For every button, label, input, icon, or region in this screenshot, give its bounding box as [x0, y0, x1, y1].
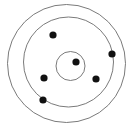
electron-outer-2 [39, 96, 46, 103]
electron-inner-1 [72, 58, 79, 65]
electron-middle-1 [49, 31, 56, 38]
electron-middle-2 [92, 75, 99, 82]
diagram-canvas [0, 0, 134, 128]
orbit-ring-middle-shell [24, 17, 114, 107]
orbit-ring-inner-shell [56, 52, 85, 81]
orbit-ring-outer-shell [8, 5, 126, 123]
electron-outer-1 [108, 50, 115, 57]
atom-model-diagram [0, 0, 134, 128]
electron-middle-3 [40, 74, 47, 81]
